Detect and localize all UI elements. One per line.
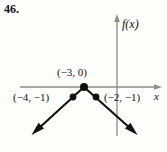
y-axis-label: f(x) [122,18,139,30]
point-label-vertex: (−3, 0) [57,66,87,78]
point-marker-left [70,94,77,101]
y-axis-arrowhead-icon [114,14,120,22]
x-axis-label: x [154,90,159,102]
point-label-right: (−2, −1) [104,91,140,103]
point-marker-right [93,94,100,101]
x-axis-arrowhead-icon [154,84,162,90]
figure-container: 46. f(x) x (−3, 0) (−4, −1) (−2, −1) [0,0,167,152]
point-label-left: (−4, −1) [13,91,49,103]
point-marker-vertex [80,83,88,91]
